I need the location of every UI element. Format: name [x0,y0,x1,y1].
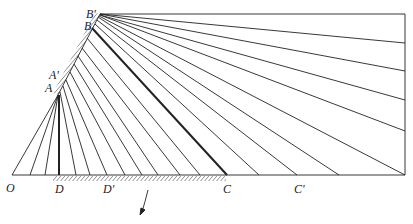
label-A: A [45,82,52,94]
label-D-prime: D' [103,183,114,195]
label-A-prime: A' [49,69,59,81]
label-B: B [84,20,91,32]
line-BC [92,28,227,175]
label-B-prime: B' [86,8,96,20]
hatch-AB [53,13,100,95]
label-D: D [55,183,64,195]
label-C: C [223,183,231,195]
arrow-icon [140,190,148,215]
fan-lines [12,14,405,175]
hatch-DC [53,176,226,181]
label-C-prime: C' [294,183,305,195]
label-O: O [6,182,15,194]
